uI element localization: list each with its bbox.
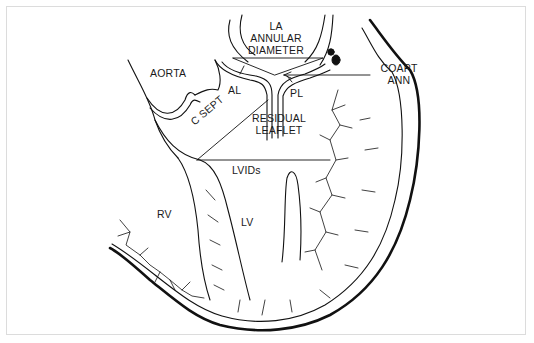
aorta-cusp-1 [147, 93, 195, 114]
aorta-cusp-3 [195, 60, 220, 95]
la-right-wall-2 [320, 15, 333, 65]
label-la: LA [231, 20, 321, 32]
label-annular: ANNULAR [231, 32, 321, 44]
label-al: AL [228, 84, 241, 96]
label-diameter: DIAMETER [231, 44, 321, 56]
label-coapt: COAPT [374, 62, 424, 74]
label-lvids: LVIDs [232, 164, 261, 176]
label-residual-leaflet: RESIDUAL LEAFLET [244, 112, 314, 136]
rv-septum-outline [178, 158, 210, 300]
label-lv: LV [241, 216, 253, 228]
label-ann: ANN [374, 74, 424, 86]
label-leaflet: LEAFLET [244, 124, 314, 136]
label-la-annular-diameter: LA ANNULAR DIAMETER [231, 20, 321, 56]
papillary-muscle [282, 172, 301, 262]
label-pl: PL [290, 87, 303, 99]
label-rv: RV [157, 208, 172, 220]
label-aorta: AORTA [150, 67, 186, 79]
label-coapt-ann: COAPT ANN [374, 62, 424, 86]
label-residual: RESIDUAL [244, 112, 314, 124]
coronary-vessel-small [328, 49, 334, 55]
coronary-vessel-large [332, 55, 340, 65]
